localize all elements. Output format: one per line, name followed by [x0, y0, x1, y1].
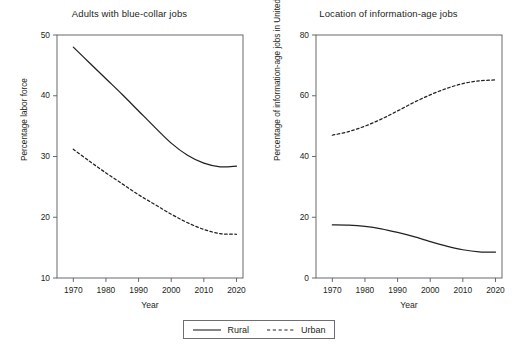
y-tick-label: 0 — [276, 273, 309, 283]
series-legend: Rural Urban — [183, 320, 335, 339]
series-line-rural — [332, 225, 495, 252]
legend-swatch-solid-icon — [192, 326, 222, 334]
x-tick-label: 1970 — [55, 285, 91, 295]
x-tick-label: 2020 — [218, 285, 254, 295]
series-line-rural — [73, 47, 236, 167]
legend-entry-rural: Rural — [192, 325, 249, 335]
y-tick-label: 50 — [17, 30, 50, 40]
x-tick-label: 2000 — [412, 285, 448, 295]
y-tick-label: 30 — [17, 151, 50, 161]
x-tick-label: 1980 — [88, 285, 124, 295]
panel-right: Location of information-age jobs Percent… — [259, 0, 518, 310]
legend-label-rural: Rural — [227, 325, 249, 335]
figure-root: Adults with blue-collar jobs Percentage … — [0, 0, 518, 347]
x-tick-label: 1970 — [314, 285, 350, 295]
legend-label-urban: Urban — [301, 325, 326, 335]
series-line-urban — [332, 80, 495, 135]
x-tick-label: 1990 — [121, 285, 157, 295]
series-line-urban — [73, 149, 236, 234]
legend-entry-urban: Urban — [266, 325, 326, 335]
x-tick-label: 2010 — [186, 285, 222, 295]
x-tick-label: 1990 — [380, 285, 416, 295]
y-tick-label: 10 — [17, 273, 50, 283]
x-tick-label: 2000 — [153, 285, 189, 295]
y-tick-label: 40 — [276, 151, 309, 161]
legend-swatch-dashed-icon — [266, 326, 296, 334]
x-tick-label: 1980 — [347, 285, 383, 295]
x-tick-label: 2010 — [445, 285, 481, 295]
y-tick-label: 20 — [276, 212, 309, 222]
y-tick-label: 80 — [276, 30, 309, 40]
y-tick-label: 20 — [17, 212, 50, 222]
panel-left: Adults with blue-collar jobs Percentage … — [0, 0, 259, 310]
y-tick-label: 40 — [17, 90, 50, 100]
y-tick-label: 60 — [276, 90, 309, 100]
x-tick-label: 2020 — [477, 285, 513, 295]
